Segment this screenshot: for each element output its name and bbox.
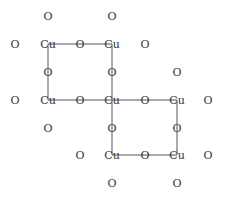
oxygen-atom: O [172,67,181,78]
oxygen-atom: O [10,39,19,50]
oxygen-atom: O [75,39,84,50]
oxygen-atom: O [43,67,52,78]
oxygen-atom: O [10,95,19,106]
oxygen-atom: O [43,123,52,134]
oxygen-atom: O [43,11,52,22]
copper-atom: Cu [104,150,120,161]
oxygen-atom: O [140,150,149,161]
copper-atom: Cu [104,39,120,50]
oxygen-atom: O [203,150,212,161]
oxygen-atom: O [140,95,149,106]
oxygen-atom: O [140,39,149,50]
copper-atom: Cu [169,150,185,161]
oxygen-atom: O [107,178,116,189]
oxygen-atom: O [107,123,116,134]
oxygen-atom: O [203,95,212,106]
oxygen-atom: O [107,11,116,22]
copper-atom: Cu [104,95,120,106]
copper-atom: Cu [169,95,185,106]
oxygen-atom: O [75,150,84,161]
copper-atom: Cu [40,39,56,50]
oxygen-atom: O [172,178,181,189]
oxygen-atom: O [107,67,116,78]
oxygen-atom: O [172,123,181,134]
oxygen-atom: O [75,95,84,106]
copper-atom: Cu [40,95,56,106]
